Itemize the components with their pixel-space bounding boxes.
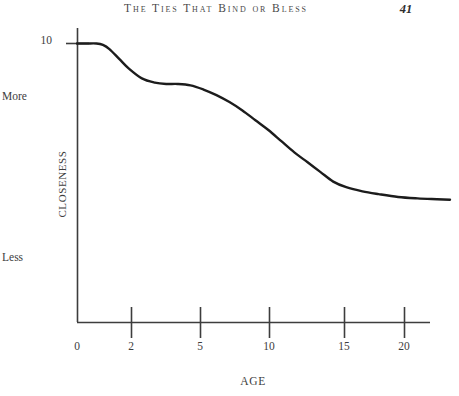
x-axis-tick-label-2: 2: [116, 340, 146, 352]
x-axis-tick-label-5: 5: [185, 340, 215, 352]
x-axis-tick-label-20: 20: [389, 340, 419, 352]
x-axis-tick-label-10: 10: [254, 340, 284, 352]
x-axis-tick-label-15: 15: [329, 340, 359, 352]
x-axis-tick-label-0: 0: [62, 340, 92, 352]
y-axis-tick-label-10: 10: [26, 34, 52, 46]
book-page: The Ties That Bind or Bless 41 10 More L…: [0, 0, 459, 396]
y-axis-label-more: More: [2, 90, 27, 102]
y-axis-label-less: Less: [2, 251, 23, 263]
closeness-by-age-chart: 10 More Less CLOSENESS AGE 025101520: [0, 0, 459, 396]
y-axis-title: CLOSENESS: [56, 119, 68, 249]
chart-svg: [0, 0, 459, 396]
closeness-curve: [77, 43, 450, 199]
x-axis-title: AGE: [213, 375, 293, 387]
